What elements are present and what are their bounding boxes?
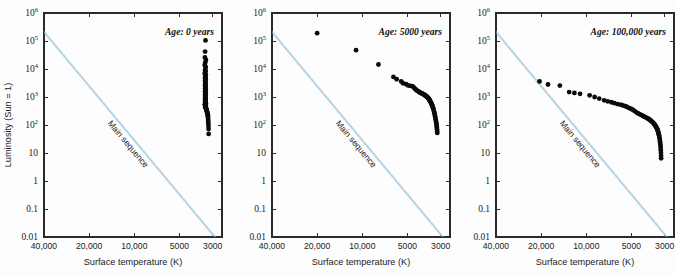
star-datapoint <box>597 96 602 101</box>
x-tick-label: 10,000 <box>121 241 148 251</box>
panel-age-annotation: Age: 5000 years <box>378 26 443 37</box>
x-tick-label: 20,000 <box>76 241 103 251</box>
y-tick-label: 10 <box>29 148 39 158</box>
x-tick-label: 10,000 <box>573 241 600 251</box>
star-datapoint <box>659 156 664 161</box>
y-tick-label: 104 <box>253 62 267 74</box>
main-sequence-line <box>44 32 215 237</box>
main-sequence-label: Main sequence <box>106 118 151 169</box>
star-datapoint <box>567 90 572 95</box>
main-sequence-line <box>496 32 667 237</box>
y-tick-label: 106 <box>25 6 39 18</box>
star-datapoint <box>592 95 597 100</box>
star-datapoint <box>315 31 320 36</box>
star-datapoint <box>203 38 208 43</box>
star-datapoint <box>546 82 551 87</box>
y-tick-label: 1 <box>485 176 490 186</box>
hr-panel-2: 1061051041031021010.10.0140,00020,00010,… <box>228 0 453 275</box>
x-tick-label: 20,000 <box>528 241 555 251</box>
y-tick-label: 106 <box>253 6 267 18</box>
plot-frame <box>272 13 450 237</box>
x-tick-label: 10,000 <box>349 241 376 251</box>
y-tick-label: 104 <box>25 62 39 74</box>
x-tick-label: 3000 <box>431 241 450 251</box>
y-tick-label: 103 <box>253 90 266 102</box>
star-datapoint <box>376 62 381 67</box>
y-tick-label: 10 <box>257 148 267 158</box>
star-datapoints <box>315 31 440 136</box>
y-tick-label: 105 <box>25 34 38 46</box>
star-datapoint <box>354 48 359 53</box>
star-datapoint <box>206 127 211 132</box>
y-tick-label: 10 <box>481 148 491 158</box>
x-axis-title: Surface temperature (K) <box>536 257 635 267</box>
star-datapoint <box>206 132 211 137</box>
star-datapoints <box>202 38 211 136</box>
panel-age-annotation: Age: 0 years <box>164 26 214 37</box>
star-datapoint <box>203 49 208 54</box>
panel-age-annotation: Age: 100,000 years <box>590 26 667 37</box>
x-tick-label: 40,000 <box>259 241 286 251</box>
star-datapoint <box>587 93 592 98</box>
y-tick-label: 102 <box>25 118 38 130</box>
y-tick-label: 104 <box>477 62 491 74</box>
y-tick-label: 103 <box>25 90 38 102</box>
star-datapoints <box>537 79 663 161</box>
x-tick-label: 5000 <box>398 241 417 251</box>
x-axis-title: Surface temperature (K) <box>84 257 183 267</box>
main-sequence-line <box>272 32 443 237</box>
main-sequence-label: Main sequence <box>558 118 603 169</box>
hr-panel-3: 1061051041031021010.10.0140,00020,00010,… <box>452 0 675 275</box>
hr-panel-1: 1061051041031021010.10.0140,00020,00010,… <box>0 0 225 275</box>
plot-frame <box>44 13 222 237</box>
x-tick-label: 5000 <box>622 241 641 251</box>
x-tick-label: 5000 <box>170 241 189 251</box>
y-tick-label: 103 <box>477 90 490 102</box>
y-tick-label: 105 <box>253 34 266 46</box>
star-datapoint <box>572 91 577 96</box>
x-axis-title: Surface temperature (K) <box>312 257 411 267</box>
star-datapoint <box>435 131 440 136</box>
x-tick-label: 40,000 <box>483 241 510 251</box>
star-datapoint <box>557 83 562 88</box>
x-tick-label: 40,000 <box>31 241 58 251</box>
star-datapoint <box>394 77 399 82</box>
x-tick-label: 20,000 <box>304 241 331 251</box>
y-axis-title: Luminosity (Sun = 1) <box>3 83 13 168</box>
y-tick-label: 106 <box>477 6 491 18</box>
y-tick-label: 102 <box>477 118 490 130</box>
star-datapoint <box>537 79 542 84</box>
plot-frame <box>496 13 674 237</box>
main-sequence-label: Main sequence <box>334 118 379 169</box>
x-tick-label: 3000 <box>203 241 222 251</box>
x-tick-label: 3000 <box>655 241 674 251</box>
hr-diagram-figure: 1061051041031021010.10.0140,00020,00010,… <box>0 0 675 275</box>
y-tick-label: 0.1 <box>26 204 38 214</box>
y-tick-label: 0.1 <box>254 204 266 214</box>
y-tick-label: 0.1 <box>478 204 490 214</box>
y-tick-label: 105 <box>477 34 490 46</box>
y-tick-label: 1 <box>261 176 266 186</box>
y-tick-label: 102 <box>253 118 266 130</box>
star-datapoint <box>578 91 583 96</box>
y-tick-label: 1 <box>33 176 38 186</box>
